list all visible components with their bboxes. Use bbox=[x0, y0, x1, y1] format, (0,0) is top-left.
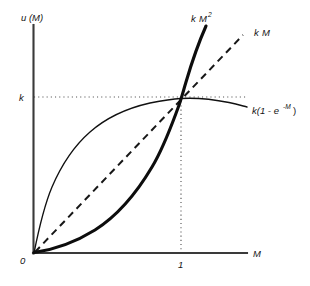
annotation-linear: k M bbox=[254, 27, 270, 38]
x-tick-label-one: 1 bbox=[178, 259, 183, 270]
annotation-exponential-head: k(1 - e bbox=[252, 105, 279, 116]
y-tick-label-k: k bbox=[19, 92, 25, 103]
annotation-quadratic-exponent: 2 bbox=[207, 11, 212, 18]
figure-plot-area: u (M) M 0 k 1 k M 2 k M k(1 - e -M ) bbox=[0, 0, 310, 286]
annotation-exponential-exponent: -M bbox=[283, 103, 291, 110]
annotation-quadratic-m: M bbox=[199, 13, 207, 24]
plot-svg: u (M) M 0 k 1 k M 2 k M k(1 - e -M ) bbox=[0, 0, 310, 286]
curve-linear-dashed bbox=[35, 35, 243, 252]
annotation-quadratic-k: k bbox=[191, 13, 197, 24]
annotation-quadratic: k M 2 bbox=[191, 11, 212, 24]
curve-concave-exponential bbox=[34, 98, 247, 253]
annotation-exponential-tail: ) bbox=[293, 105, 296, 116]
x-axis-label: M bbox=[253, 248, 261, 259]
origin-label: 0 bbox=[20, 255, 26, 266]
annotation-linear-m: M bbox=[262, 27, 270, 38]
annotation-exponential: k(1 - e -M ) bbox=[252, 103, 296, 116]
curve-convex-quadratic bbox=[34, 26, 206, 253]
annotation-linear-k: k bbox=[254, 27, 260, 38]
y-axis-label: u (M) bbox=[21, 12, 43, 23]
